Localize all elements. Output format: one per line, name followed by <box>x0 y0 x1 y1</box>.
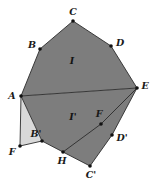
vertex-label-F: F <box>9 147 16 157</box>
vertex-dot-F <box>18 144 22 148</box>
region-label-I: I <box>70 56 74 66</box>
vertex-dot-C <box>71 19 75 23</box>
geometry-canvas <box>0 0 151 184</box>
vertex-dot-D <box>109 44 113 48</box>
vertex-label-E: E <box>141 81 148 91</box>
vertex-dot-E <box>135 86 139 90</box>
vertex-dot-C-prime <box>88 164 92 168</box>
vertex-label-F-prime: F <box>96 109 103 119</box>
vertex-dot-B-prime <box>40 139 44 143</box>
region-I-fill <box>21 21 137 96</box>
vertex-dot-F-prime <box>99 122 103 126</box>
vertex-label-C: C <box>69 7 77 17</box>
vertex-label-B: B <box>28 40 36 50</box>
vertex-label-D: D <box>116 38 124 48</box>
region-label-I-prime: I' <box>69 112 76 122</box>
vertex-label-B-prime: B' <box>31 129 42 139</box>
region-I-prime-fill <box>21 88 137 166</box>
vertex-label-A: A <box>8 91 15 101</box>
geometry-figure: A B C D E F B' H C' D' F I I' <box>0 0 151 184</box>
vertex-dot-D-prime <box>110 133 114 137</box>
vertex-dot-B <box>38 47 42 51</box>
vertex-dot-A <box>19 94 23 98</box>
vertex-label-D-prime: D' <box>116 133 127 143</box>
vertex-dot-H <box>61 150 65 154</box>
vertex-label-H: H <box>58 156 67 166</box>
vertex-label-C-prime: C' <box>86 170 96 180</box>
